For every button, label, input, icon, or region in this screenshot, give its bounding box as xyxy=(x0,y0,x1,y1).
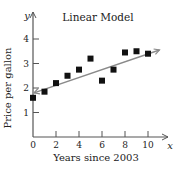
x-axis-letter: x xyxy=(167,140,173,151)
data-point-square xyxy=(42,89,48,95)
y-axis-label: Price per gallon xyxy=(2,47,13,128)
chart-title: Linear Model xyxy=(62,11,134,23)
y-tick-label: 4 xyxy=(23,34,29,44)
model-line xyxy=(34,49,160,94)
trend-line xyxy=(34,50,160,93)
data-point-square xyxy=(30,95,36,101)
chart-svg: Linear Model Price per gallon Years sinc… xyxy=(0,0,175,181)
x-tick-label: 8 xyxy=(122,140,128,150)
x-tick-label: 6 xyxy=(99,140,105,150)
data-point-square xyxy=(76,67,82,73)
y-tick-label: 2 xyxy=(23,83,29,93)
y-tick-label: 1 xyxy=(23,108,29,118)
data-point-square xyxy=(122,49,128,55)
data-point-square xyxy=(88,56,94,62)
linear-model-chart: Linear Model Price per gallon Years sinc… xyxy=(0,0,175,181)
data-point-square xyxy=(134,48,140,54)
y-axis-letter: y xyxy=(23,10,30,21)
y-tick-label: 3 xyxy=(23,59,29,69)
x-tick-label: 0 xyxy=(30,140,36,150)
data-point-square xyxy=(99,78,105,84)
x-axis-label: Years since 2003 xyxy=(52,152,139,163)
data-point-square xyxy=(111,67,117,73)
x-tick-label: 10 xyxy=(142,140,154,150)
data-point-square xyxy=(65,73,71,79)
x-tick-label: 4 xyxy=(76,140,82,150)
data-point-square xyxy=(53,80,59,86)
data-point-square xyxy=(145,51,151,57)
data-points xyxy=(30,48,151,101)
axes xyxy=(30,12,168,140)
x-tick-label: 2 xyxy=(53,140,59,150)
